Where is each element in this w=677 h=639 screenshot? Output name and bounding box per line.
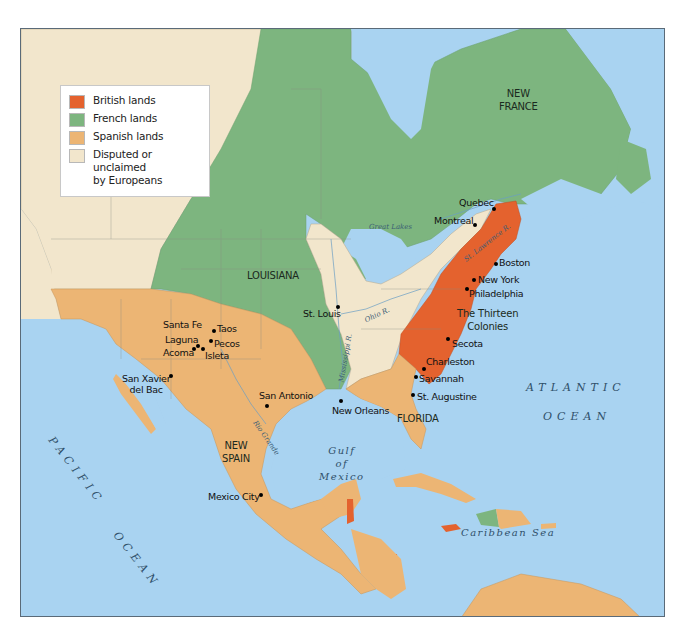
legend-item-disputed: Disputed or unclaimed by Europeans (69, 148, 201, 187)
land-cuba (393, 473, 476, 503)
city-label-line2: del Bac (130, 384, 163, 395)
city-quebec: Quebec (459, 197, 494, 208)
city-philadelphia: Philadelphia (469, 288, 523, 299)
region-label: SPAIN (222, 453, 250, 464)
city-dot-charleston (422, 367, 426, 371)
map-frame: British lands French lands Spanish lands… (20, 28, 665, 617)
region-new-france: NEW FRANCE (499, 87, 538, 113)
city-new-orleans: New Orleans (332, 405, 389, 416)
legend-item-french: French lands (69, 112, 201, 127)
city-mexico-city: Mexico City (208, 491, 260, 502)
city-dot-boston (494, 262, 498, 266)
region-label: The Thirteen (457, 308, 518, 319)
region-label: NEW (507, 88, 530, 99)
great-lakes-label: Great Lakes (369, 223, 412, 231)
gulf-line: Mexico (319, 471, 365, 482)
map-legend: British lands French lands Spanish lands… (60, 85, 210, 197)
city-dot-new-york (472, 278, 476, 282)
spanish-swatch (69, 131, 85, 145)
british-swatch (69, 95, 85, 109)
city-dot-secota (446, 337, 450, 341)
land-south-america (461, 574, 641, 617)
disputed-swatch (69, 149, 85, 163)
city-boston: Boston (499, 257, 530, 268)
city-dot-new-orleans (339, 399, 343, 403)
legend-item-british: British lands (69, 94, 201, 109)
city-san-xavier: San Xavier del Bac (122, 373, 170, 395)
caribbean-sea-label: Caribbean Sea (461, 527, 555, 538)
city-dot-san-antonio (265, 404, 269, 408)
legend-label: French lands (93, 112, 157, 125)
city-acoma: Acoma (163, 347, 194, 358)
city-st-louis: St. Louis (303, 308, 341, 319)
ocean-line: ATLANTIC (526, 381, 626, 394)
region-label: Colonies (467, 321, 508, 332)
city-santa-fe: Santa Fe (163, 319, 202, 330)
legend-label: British lands (93, 94, 155, 107)
city-dot-pecos (209, 339, 213, 343)
legend-label-line1: Disputed or unclaimed (93, 148, 152, 173)
gulf-of-mexico-label: Gulf of Mexico (319, 444, 365, 483)
region-louisiana: LOUISIANA (247, 269, 299, 282)
gulf-line: Gulf (328, 445, 355, 456)
gulf-line: of (335, 458, 348, 469)
land-hispaniola-spanish (496, 509, 531, 529)
land-jamaica (441, 524, 461, 532)
city-laguna: Laguna (165, 334, 198, 345)
ocean-line: OCEAN (543, 410, 611, 423)
legend-label: Disputed or unclaimed by Europeans (93, 148, 201, 187)
legend-label-line2: by Europeans (93, 174, 162, 186)
city-savannah: Savannah (419, 373, 464, 384)
region-florida: FLORIDA (397, 412, 439, 425)
french-swatch (69, 113, 85, 127)
region-label: FRANCE (499, 101, 538, 112)
city-label-line1: San Xavier (122, 373, 170, 384)
city-dot-taos (212, 329, 216, 333)
city-dot-st-augustine (411, 393, 415, 397)
region-thirteen-colonies: The Thirteen Colonies (457, 307, 518, 333)
region-new-spain: NEW SPAIN (222, 439, 250, 465)
region-label: NEW (224, 440, 247, 451)
land-hispaniola-french (476, 509, 499, 527)
city-taos: Taos (217, 323, 237, 334)
city-pecos: Pecos (214, 338, 240, 349)
legend-item-spanish: Spanish lands (69, 130, 201, 145)
atlantic-ocean-label: ATLANTIC (526, 381, 626, 394)
city-isleta: Isleta (205, 350, 229, 361)
city-secota: Secota (452, 338, 483, 349)
city-san-antonio: San Antonio (259, 390, 313, 401)
city-charleston: Charleston (426, 356, 474, 367)
city-dot-montreal (473, 223, 477, 227)
city-montreal: Montreal (434, 215, 473, 226)
city-st-augustine: St. Augustine (417, 391, 477, 402)
legend-label: Spanish lands (93, 130, 163, 143)
city-dot-savannah (414, 375, 418, 379)
city-new-york: New York (478, 274, 519, 285)
atlantic-ocean-label-2: OCEAN (543, 410, 611, 423)
land-british-belize (347, 499, 354, 524)
